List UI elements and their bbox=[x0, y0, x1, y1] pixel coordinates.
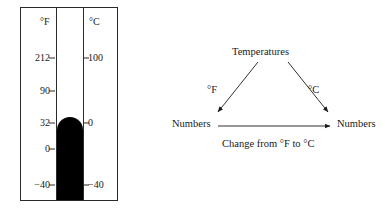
fahrenheit-tick-mark bbox=[49, 91, 55, 92]
fahrenheit-tick-label: −40 bbox=[34, 180, 50, 190]
numbers-node-right-label: Numbers bbox=[337, 119, 376, 130]
temperatures-node-label: Temperatures bbox=[232, 47, 289, 58]
celsius-scale-header: °C bbox=[89, 17, 100, 27]
celsius-tick-label: 0 bbox=[88, 118, 93, 128]
conversion-arrow-label: Change from °F to °C bbox=[222, 139, 314, 150]
fahrenheit-tick-mark bbox=[49, 149, 55, 150]
fahrenheit-scale-header: °F bbox=[40, 17, 50, 27]
numbers-node-left-label: Numbers bbox=[172, 119, 211, 130]
fahrenheit-tick-mark bbox=[49, 185, 55, 186]
thermometer: °F °C 212 100 90 32 0 0 −40 −40 bbox=[20, 7, 118, 201]
fahrenheit-arrow-label: °F bbox=[207, 85, 217, 96]
fahrenheit-tick-mark bbox=[49, 123, 55, 124]
diagram-arrows bbox=[160, 0, 385, 209]
mercury-column bbox=[57, 117, 83, 200]
celsius-tick-label: 100 bbox=[88, 53, 103, 63]
fahrenheit-tick-label: 212 bbox=[35, 53, 50, 63]
arrow-temperatures-to-fahrenheit bbox=[218, 62, 258, 112]
celsius-tick-label: −40 bbox=[88, 180, 104, 190]
conversion-diagram: Temperatures Numbers Numbers °F °C Chang… bbox=[160, 0, 385, 209]
celsius-arrow-label: °C bbox=[308, 85, 319, 96]
thermometer-tube-right-wall bbox=[83, 8, 84, 200]
fahrenheit-tick-mark bbox=[49, 58, 55, 59]
